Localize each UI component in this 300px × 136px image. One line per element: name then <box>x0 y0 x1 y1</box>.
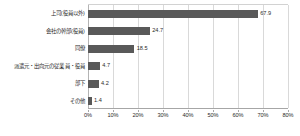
gridline <box>213 5 214 108</box>
bar-value-label: 4.7 <box>100 63 110 69</box>
bar-value-label: 4.2 <box>99 81 109 87</box>
gridline <box>163 5 164 108</box>
x-tick-label: 10% <box>107 113 118 119</box>
bar-value-label: 24.7 <box>150 28 163 34</box>
bar-category-label: 派遣元・出向元の従業員・役員 <box>14 64 88 69</box>
bar-value-label: 67.9 <box>258 11 271 17</box>
x-tick-label: 70% <box>257 113 268 119</box>
bar-row: その他1.4 <box>88 97 288 105</box>
x-tick-label: 30% <box>157 113 168 119</box>
x-tick-label: 50% <box>207 113 218 119</box>
bar <box>88 10 258 18</box>
x-tick-label: 0% <box>84 113 92 119</box>
x-axis: 0%10%20%30%40%50%60%70%80% <box>88 110 288 122</box>
bar-category-label: 会社の幹部(役員) <box>46 29 89 34</box>
bar <box>88 45 134 53</box>
bar-value-label: 1.4 <box>92 98 102 104</box>
gridline <box>113 5 114 108</box>
bar-row: 会社の幹部(役員)24.7 <box>88 27 288 35</box>
x-tick-label: 60% <box>232 113 243 119</box>
x-tick-label: 80% <box>282 113 293 119</box>
gridline <box>288 5 289 108</box>
bar-row: 部下4.2 <box>88 80 288 88</box>
gridline <box>88 5 89 108</box>
bar-category-label: 同僚 <box>75 46 88 51</box>
gridline <box>138 5 139 108</box>
bar-category-label: その他 <box>70 99 88 104</box>
bar-row: 同僚18.5 <box>88 45 288 53</box>
bar <box>88 62 100 70</box>
gridline <box>263 5 264 108</box>
bar-row: 派遣元・出向元の従業員・役員4.7 <box>88 62 288 70</box>
x-tick-label: 20% <box>132 113 143 119</box>
bar-category-label: 部下 <box>75 81 88 86</box>
x-tick-label: 40% <box>182 113 193 119</box>
bar-category-label: 上司(役員以外) <box>51 11 88 16</box>
bar <box>88 80 99 88</box>
bar-chart: 上司(役員以外)67.9会社の幹部(役員)24.7同僚18.5派遣元・出向元の従… <box>0 0 300 136</box>
plot-area: 上司(役員以外)67.9会社の幹部(役員)24.7同僚18.5派遣元・出向元の従… <box>88 4 288 109</box>
gridline <box>238 5 239 108</box>
gridline <box>188 5 189 108</box>
bar-value-label: 18.5 <box>134 46 147 52</box>
bar <box>88 27 150 35</box>
bar-row: 上司(役員以外)67.9 <box>88 10 288 18</box>
